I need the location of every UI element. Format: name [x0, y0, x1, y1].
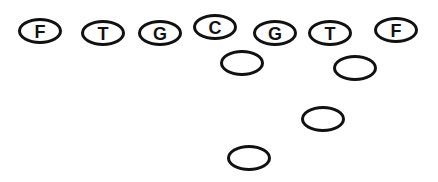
player-end-left: F — [18, 18, 62, 44]
back-1 — [220, 50, 264, 76]
player-tackle-left: T — [81, 20, 125, 46]
player-label: T — [325, 25, 336, 43]
player-label: F — [391, 22, 402, 40]
player-label: C — [209, 19, 222, 37]
player-label: G — [268, 25, 282, 43]
player-end-right: F — [374, 17, 418, 43]
player-tackle-right: T — [308, 20, 352, 46]
player-center: C — [193, 14, 237, 40]
player-label: F — [35, 23, 46, 41]
player-guard-left: G — [138, 20, 182, 46]
back-4 — [227, 145, 271, 171]
player-guard-right: G — [253, 20, 297, 46]
player-label: T — [98, 25, 109, 43]
back-3 — [301, 106, 345, 132]
back-2 — [333, 55, 377, 81]
player-label: G — [153, 25, 167, 43]
